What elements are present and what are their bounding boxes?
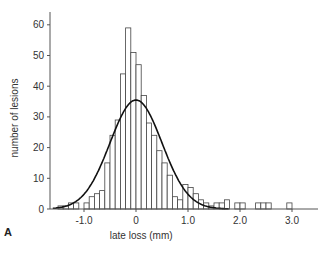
histogram-bar	[240, 203, 245, 209]
y-tick-label: 30	[33, 111, 45, 122]
histogram-bar	[152, 135, 157, 209]
histogram-bar	[136, 65, 141, 209]
x-tick-label: 3.0	[285, 215, 299, 226]
x-tick-label: 1.0	[181, 215, 195, 226]
histogram-bar	[178, 200, 183, 209]
histogram-bar	[157, 151, 162, 209]
histogram-bar	[287, 203, 292, 209]
x-axis-label: late loss (mm)	[110, 230, 173, 241]
histogram-bar	[84, 203, 89, 209]
histogram-bar	[110, 135, 115, 209]
histogram-bar	[172, 197, 177, 209]
x-tick-label: 2.0	[233, 215, 247, 226]
x-tick-label: -1.0	[75, 215, 93, 226]
histogram-bar	[94, 194, 99, 209]
histogram-bar	[266, 203, 271, 209]
histogram-bar	[141, 95, 146, 209]
histogram-bar	[256, 203, 261, 209]
panel-label: A	[4, 226, 12, 238]
y-tick-label: 20	[33, 142, 45, 153]
histogram-bar	[167, 175, 172, 209]
histogram-bar	[105, 163, 110, 209]
y-axis-label: number of lesions	[9, 79, 20, 158]
histogram-bar	[115, 120, 120, 209]
histogram-bar	[224, 200, 229, 209]
histogram-bar	[74, 203, 79, 209]
histogram-bar	[261, 203, 266, 209]
histogram-bar	[162, 163, 167, 209]
histogram-bar	[89, 197, 94, 209]
histogram-bar	[120, 74, 125, 209]
histogram-bar	[235, 203, 240, 209]
x-tick-label: 0	[133, 215, 139, 226]
y-tick-label: 50	[33, 50, 45, 61]
y-tick-label: 10	[33, 173, 45, 184]
histogram-bar	[146, 123, 151, 209]
histogram-bar	[126, 28, 131, 209]
histogram-chart: 0102030405060-1.001.02.03.0late loss (mm…	[0, 0, 331, 259]
histogram-bar	[131, 52, 136, 209]
histogram-bar	[100, 191, 105, 209]
y-tick-label: 40	[33, 81, 45, 92]
y-tick-label: 0	[38, 204, 44, 215]
y-tick-label: 60	[33, 19, 45, 30]
